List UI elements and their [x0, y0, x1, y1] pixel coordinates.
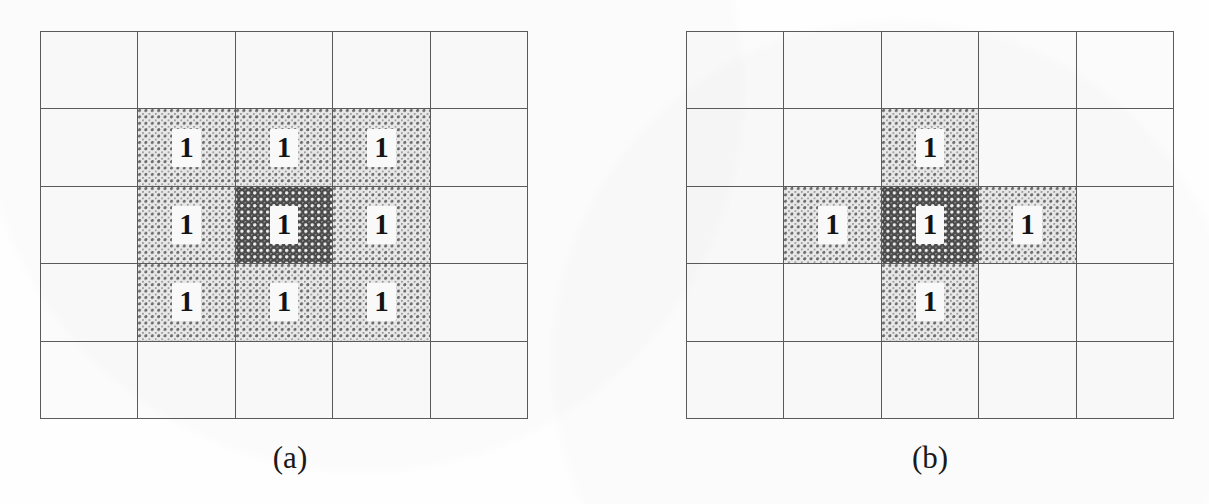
grid-cell	[138, 342, 234, 418]
8-neighborhood-grid: 111111111	[40, 31, 528, 419]
grid-cell: 1	[882, 187, 978, 263]
grid-cell: 1	[138, 264, 234, 340]
grid-cell: 1	[236, 187, 332, 263]
grid-cell: 1	[333, 187, 429, 263]
cell-value: 1	[916, 206, 945, 244]
grid-cell	[979, 342, 1075, 418]
panel-caption: (b)	[850, 440, 1010, 476]
grid-cell	[687, 187, 783, 263]
grid-cell: 1	[882, 264, 978, 340]
grid-cell	[882, 342, 978, 418]
cell-value: 1	[367, 283, 396, 321]
grid-cell: 1	[979, 187, 1075, 263]
grid-cell: 1	[138, 187, 234, 263]
grid-cell	[979, 264, 1075, 340]
grid-cell	[687, 109, 783, 185]
grid-cell	[784, 109, 880, 185]
grid-cell	[784, 342, 880, 418]
grid-cell	[431, 342, 527, 418]
cell-value: 1	[270, 283, 299, 321]
cell-value: 1	[818, 206, 847, 244]
grid-cell	[687, 32, 783, 108]
grid-cell	[979, 32, 1075, 108]
grid-cell	[1077, 109, 1173, 185]
grid-cell	[431, 32, 527, 108]
grid-cell: 1	[333, 264, 429, 340]
grid-cell	[333, 32, 429, 108]
neighborhood-grid: 111111111	[40, 31, 528, 419]
neighborhood-grid: 11111	[686, 31, 1174, 419]
grid-cell	[431, 264, 527, 340]
grid-cell: 1	[236, 264, 332, 340]
4-neighborhood-grid: 11111	[686, 31, 1174, 419]
grid-cell: 1	[138, 109, 234, 185]
figure-page: 111111111(a)11111(b)	[0, 0, 1209, 504]
grid-cell	[41, 342, 137, 418]
grid-cell	[784, 32, 880, 108]
grid-cell	[1077, 32, 1173, 108]
grid-cell	[784, 264, 880, 340]
grid-cell: 1	[333, 109, 429, 185]
grid-cell	[1077, 264, 1173, 340]
cell-value: 1	[916, 129, 945, 167]
cell-value: 1	[172, 206, 201, 244]
grid-cell	[41, 32, 137, 108]
grid-cell	[979, 109, 1075, 185]
grid-cell	[236, 32, 332, 108]
grid-cell: 1	[784, 187, 880, 263]
grid-cell	[1077, 187, 1173, 263]
panel-caption: (a)	[210, 440, 370, 476]
grid-cell: 1	[882, 109, 978, 185]
grid-cell	[1077, 342, 1173, 418]
grid-cell	[431, 109, 527, 185]
cell-value: 1	[172, 129, 201, 167]
grid-cell: 1	[236, 109, 332, 185]
grid-cell	[138, 32, 234, 108]
cell-value: 1	[172, 283, 201, 321]
grid-cell	[333, 342, 429, 418]
cell-value: 1	[270, 129, 299, 167]
grid-cell	[236, 342, 332, 418]
grid-cell	[687, 342, 783, 418]
grid-cell	[41, 187, 137, 263]
grid-cell	[687, 264, 783, 340]
grid-cell	[41, 109, 137, 185]
cell-value: 1	[1013, 206, 1042, 244]
cell-value: 1	[367, 206, 396, 244]
grid-cell	[431, 187, 527, 263]
cell-value: 1	[270, 206, 299, 244]
grid-cell	[882, 32, 978, 108]
cell-value: 1	[367, 129, 396, 167]
cell-value: 1	[916, 283, 945, 321]
grid-cell	[41, 264, 137, 340]
